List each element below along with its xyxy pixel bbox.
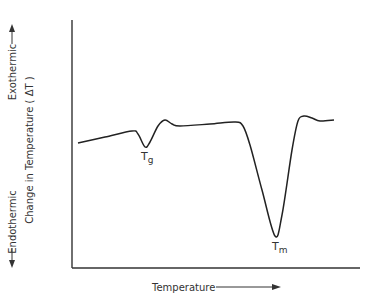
endo-arrow-head-icon <box>9 260 15 268</box>
endothermic-label: Endothermic <box>7 190 18 254</box>
tg-annotation: Tg <box>140 150 153 165</box>
y-axis-label: Change in Temperature ( ΔT ) <box>24 76 35 223</box>
exo-arrow-head-icon <box>9 24 15 32</box>
dta-curve <box>78 116 334 237</box>
dta-chart: Tg Tm Temperature Change in Temperature … <box>0 0 380 301</box>
tm-annotation: Tm <box>271 240 288 255</box>
x-arrow-head-icon <box>272 284 281 290</box>
x-axis-label: Temperature <box>151 282 215 293</box>
exothermic-label: Exothermic <box>7 44 18 100</box>
